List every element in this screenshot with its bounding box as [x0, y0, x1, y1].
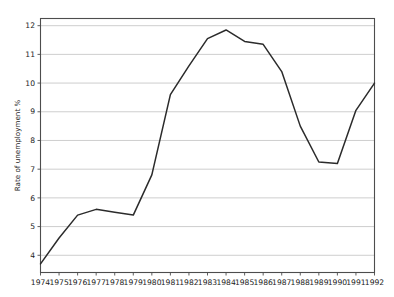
x-tick-label: 1980: [142, 278, 161, 287]
x-tick-label: 1977: [87, 278, 106, 287]
x-tick-label: 1985: [235, 278, 254, 287]
y-tick-label: 9: [30, 107, 35, 116]
y-tick-label: 6: [30, 194, 35, 203]
x-tick-label: 1986: [254, 278, 273, 287]
x-tick-label: 1990: [328, 278, 347, 287]
x-tick-label: 1982: [179, 278, 198, 287]
x-tick-label: 1988: [291, 278, 310, 287]
y-tick-label: 4: [30, 251, 35, 260]
chart-background: [0, 0, 394, 297]
y-tick-label: 12: [25, 21, 35, 30]
x-tick-label: 1975: [49, 278, 68, 287]
x-tick-label: 1992: [365, 278, 384, 287]
x-tick-label: 1984: [216, 278, 235, 287]
x-axis-tick-labels: 1974197519761977197819791980198119821983…: [31, 278, 384, 287]
x-tick-label: 1978: [105, 278, 124, 287]
y-tick-label: 10: [25, 79, 35, 88]
chart-canvas: 456789101112 197419751976197719781979198…: [0, 0, 394, 297]
y-tick-label: 11: [25, 50, 35, 59]
x-tick-label: 1991: [346, 278, 365, 287]
x-tick-label: 1989: [309, 278, 328, 287]
y-tick-label: 5: [30, 222, 35, 231]
x-tick-label: 1983: [198, 278, 217, 287]
y-axis-label: Rate of unemployment %: [13, 100, 22, 192]
x-tick-label: 1976: [68, 278, 87, 287]
y-tick-label: 8: [30, 136, 35, 145]
x-tick-label: 1979: [124, 278, 143, 287]
x-tick-label: 1987: [272, 278, 291, 287]
x-tick-label: 1981: [161, 278, 180, 287]
unemployment-line-chart: 456789101112 197419751976197719781979198…: [0, 0, 394, 297]
y-tick-label: 7: [30, 165, 35, 174]
x-tick-label: 1974: [31, 278, 50, 287]
